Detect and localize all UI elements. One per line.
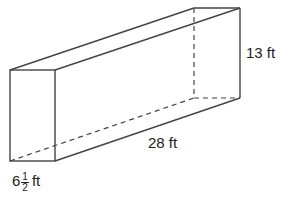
width-whole: 6: [12, 172, 20, 189]
width-fraction: 12: [21, 172, 29, 193]
hidden-bottom-left-edge: [10, 98, 194, 161]
bottom-right-edge: [55, 98, 240, 161]
prism-diagram: [0, 0, 285, 201]
top-left-edge: [10, 8, 194, 70]
length-label: 28 ft: [148, 134, 177, 151]
width-label: 612ft: [12, 172, 40, 193]
height-label: 13 ft: [246, 44, 275, 61]
width-unit: ft: [32, 172, 40, 189]
top-right-edge: [55, 8, 240, 70]
width-denominator: 2: [22, 183, 28, 193]
